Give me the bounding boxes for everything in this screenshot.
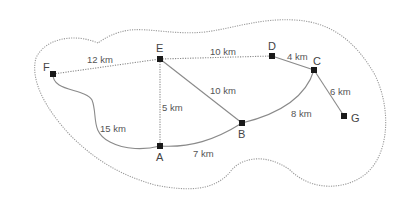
- edge-f-a: [53, 74, 160, 149]
- node-b: [239, 120, 245, 126]
- node-c: [311, 67, 317, 73]
- edge-label-e-b: 10 km: [210, 85, 236, 96]
- edge-label-f-a: 15 km: [100, 123, 126, 134]
- graph-diagram: A B C D E F G 12 km 10 km 4 km 6 km 10 k…: [0, 0, 406, 208]
- node-label-e: E: [156, 42, 163, 54]
- edge-label-a-b: 7 km: [193, 148, 214, 159]
- edge-label-e-d: 10 km: [210, 46, 236, 57]
- node-e: [157, 56, 163, 62]
- node-label-b: B: [238, 128, 245, 140]
- edge-label-f-e: 12 km: [87, 54, 113, 65]
- node-label-a: A: [156, 151, 164, 163]
- edge-a-b: [160, 123, 242, 146]
- edge-label-e-a: 5 km: [162, 102, 183, 113]
- node-label-g: G: [351, 112, 360, 124]
- node-a: [157, 143, 163, 149]
- node-label-d: D: [268, 40, 276, 52]
- edge-label-d-c: 4 km: [287, 51, 308, 62]
- node-d: [269, 53, 275, 59]
- edge-label-b-c: 8 km: [291, 108, 312, 119]
- edge-label-c-g: 6 km: [330, 86, 351, 97]
- node-label-f: F: [43, 61, 50, 73]
- node-f: [50, 71, 56, 77]
- node-g: [341, 113, 347, 119]
- node-label-c: C: [313, 55, 321, 67]
